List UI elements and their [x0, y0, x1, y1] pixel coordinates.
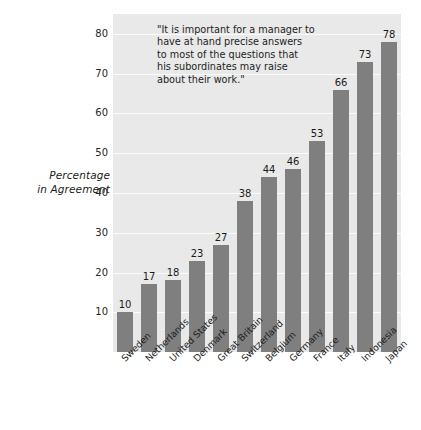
- bar-value-label: 53: [304, 128, 330, 139]
- quote-line: his subordinates may raise: [157, 61, 327, 73]
- quote-line: about their work.": [157, 74, 327, 86]
- bar-value-label: 66: [328, 77, 354, 88]
- quote-line: "It is important for a manager to: [157, 24, 327, 36]
- y-axis-tick-label: 30: [78, 227, 108, 238]
- bar-value-label: 10: [112, 299, 138, 310]
- bar-value-label: 17: [136, 271, 162, 282]
- y-axis-tick-label: 10: [78, 306, 108, 317]
- bar: [309, 141, 325, 352]
- bar-value-label: 18: [160, 267, 186, 278]
- y-axis-tick-label: 80: [78, 28, 108, 39]
- quote-annotation: "It is important for a manager to have a…: [157, 24, 327, 86]
- bar-value-label: 27: [208, 232, 234, 243]
- bar: [285, 169, 301, 352]
- bar-value-label: 23: [184, 248, 210, 259]
- quote-line: have at hand precise answers: [157, 36, 327, 48]
- bar: [357, 62, 373, 352]
- bar: [381, 42, 397, 352]
- y-axis-tick-label: 40: [78, 187, 108, 198]
- bar-value-label: 78: [376, 29, 402, 40]
- bar-value-label: 73: [352, 49, 378, 60]
- bar-chart: Percentage in Agreement 1020304050607080…: [0, 0, 421, 430]
- y-axis-tick-label: 50: [78, 147, 108, 158]
- y-axis-tick-label: 70: [78, 68, 108, 79]
- bar-value-label: 46: [280, 156, 306, 167]
- y-axis-title-line: Percentage: [6, 168, 110, 182]
- bar-value-label: 44: [256, 164, 282, 175]
- bar-value-label: 38: [232, 188, 258, 199]
- quote-line: to most of the questions that: [157, 49, 327, 61]
- y-axis-tick-label: 60: [78, 107, 108, 118]
- y-axis-tick-label: 20: [78, 267, 108, 278]
- bar: [333, 90, 349, 352]
